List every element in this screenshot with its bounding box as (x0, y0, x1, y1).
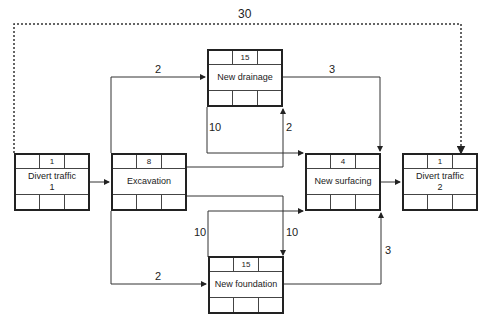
node-label: Excavation (113, 168, 185, 195)
edge-label-foundation-ss: 10 (194, 226, 206, 238)
duration: 4 (331, 155, 355, 168)
node-new-drainage[interactable]: 15 New drainage (207, 49, 283, 107)
link-drainage-surfacing (283, 77, 380, 151)
edge-label-drainage-ss: 10 (209, 121, 221, 133)
node-divert-traffic-1[interactable]: 1 Divert traffic 1 (14, 153, 90, 211)
edge-label-excavation-drainage: 2 (155, 63, 161, 75)
edge-label-excavation-foundation: 2 (155, 270, 161, 282)
node-label: Divert traffic 2 (404, 168, 476, 195)
link-excavation-drainage-ff (187, 109, 283, 167)
duration: 15 (233, 51, 257, 64)
edge-label-30: 30 (238, 7, 251, 21)
edge-label-excavation-drainage-ff: 2 (286, 121, 292, 133)
duration: 1 (428, 155, 452, 168)
node-excavation[interactable]: 8 Excavation (111, 153, 187, 211)
edge-label-excavation-foundation-ff: 10 (286, 226, 298, 238)
node-divert-traffic-2[interactable]: 1 Divert traffic 2 (402, 153, 478, 211)
link-foundation-surfacing (284, 213, 381, 284)
duration: 8 (137, 155, 161, 168)
duration: 15 (234, 258, 258, 271)
node-label: New foundation (210, 271, 282, 298)
node-label: Divert traffic 1 (16, 168, 88, 195)
node-label: New surfacing (307, 168, 379, 195)
link-excavation-drainage (111, 77, 205, 153)
node-new-foundation[interactable]: 15 New foundation (208, 256, 284, 314)
node-label: New drainage (209, 64, 281, 91)
edge-label-drainage-surfacing: 3 (329, 63, 335, 75)
edge-label-foundation-surfacing: 3 (385, 244, 391, 256)
duration: 1 (40, 155, 64, 168)
node-new-surfacing[interactable]: 4 New surfacing (305, 153, 381, 211)
